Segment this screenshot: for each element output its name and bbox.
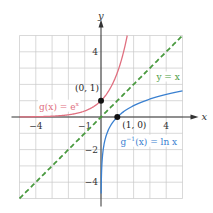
x-tick-label: 4 [163, 121, 169, 131]
x-tick-label: −4 [29, 121, 43, 131]
curve-label-rest: (x) = ln x [135, 137, 177, 147]
y-axis-label: y [97, 10, 104, 21]
point-marker [114, 114, 120, 120]
curve-labels: g(x) = exg−1(x) = ln xy = x [38, 72, 181, 147]
curve-label-main: g(x) = e [39, 102, 75, 112]
y-tick-label: −2 [85, 145, 98, 155]
plot-svg: xy −4−144−2−4 (0, 1)(1, 0) g(x) = exg−1(… [0, 0, 213, 213]
function-inverse-graph: xy −4−144−2−4 (0, 1)(1, 0) g(x) = exg−1(… [0, 0, 213, 213]
curve-label: y = x [155, 72, 179, 82]
y-tick-label: 4 [92, 47, 98, 57]
point-label: (1, 0) [122, 120, 146, 130]
y-tick-label: −4 [85, 177, 99, 187]
y-axis-arrow-icon [99, 20, 104, 28]
x-axis-arrow-icon [191, 115, 199, 120]
curve-label-main: y = x [155, 72, 179, 82]
curve-label: g(x) = ex [39, 100, 79, 112]
curve-label-superscript: −1 [126, 135, 135, 142]
point-label: (0, 1) [75, 83, 99, 93]
point-marker [98, 98, 104, 104]
x-axis-label: x [202, 111, 208, 122]
